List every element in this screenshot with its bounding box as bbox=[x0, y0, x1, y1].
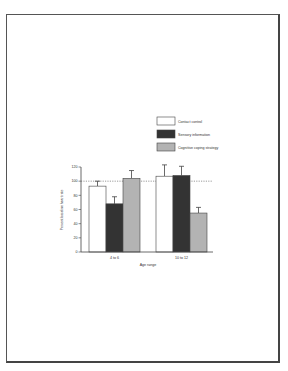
y-tick-label: 80 bbox=[74, 194, 78, 198]
legend-swatch bbox=[157, 143, 175, 151]
bar bbox=[123, 178, 140, 252]
x-tick-label: 10 to 12 bbox=[175, 256, 188, 260]
y-tick-label: 120 bbox=[72, 165, 78, 169]
bar bbox=[106, 204, 123, 252]
x-axis-label: Age range bbox=[140, 263, 157, 267]
x-tick-label: 4 to 6 bbox=[110, 256, 119, 260]
y-tick-label: 0 bbox=[76, 250, 78, 254]
legend: Contact controlSensory informationCognit… bbox=[157, 117, 219, 151]
bar bbox=[173, 176, 190, 253]
legend-label: Sensory information bbox=[178, 133, 210, 137]
y-tick-label: 60 bbox=[74, 208, 78, 212]
bar bbox=[89, 186, 106, 252]
bar bbox=[156, 176, 173, 252]
legend-swatch bbox=[157, 130, 175, 138]
y-tick-label: 100 bbox=[72, 179, 78, 183]
y-tick-label: 20 bbox=[74, 236, 78, 240]
bar bbox=[190, 213, 207, 252]
legend-label: Cognitive coping strategy bbox=[178, 146, 219, 150]
y-tick-label: 40 bbox=[74, 222, 78, 226]
legend-swatch bbox=[157, 117, 175, 125]
legend-label: Contact control bbox=[178, 120, 202, 124]
y-axis-label: Percent baseline heart rate bbox=[60, 190, 64, 231]
bar-chart: Contact controlSensory informationCognit… bbox=[0, 0, 288, 371]
plot-area: 4 to 610 to 12020406080100120 bbox=[72, 165, 214, 260]
